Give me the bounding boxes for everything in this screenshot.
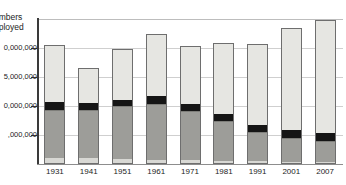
bar-segment-primary — [316, 162, 335, 163]
bar-segment-services — [147, 35, 166, 97]
bar-segment-primary — [113, 159, 132, 163]
bar — [146, 34, 167, 164]
bar-segment-tertiary-manual — [214, 114, 233, 121]
bar-segment-primary — [45, 158, 64, 163]
y-axis-tick-label: ,000,000 — [0, 130, 37, 139]
bar-segment-primary — [282, 162, 301, 163]
bar — [213, 43, 234, 164]
bar-segment-secondary — [181, 111, 200, 161]
bar-segment-tertiary-manual — [147, 96, 166, 104]
bar-segment-tertiary-manual — [79, 103, 98, 110]
bar-segment-services — [214, 44, 233, 114]
bar — [315, 20, 336, 164]
x-axis-tick-label: 1981 — [207, 167, 241, 176]
bar-segment-primary — [147, 160, 166, 164]
bar — [44, 45, 65, 164]
x-axis-tick-label: 1931 — [38, 167, 72, 176]
y-axis-tick-label: 0,000,000 — [0, 101, 37, 110]
x-axis-tick-label: 1941 — [72, 167, 106, 176]
bar — [78, 68, 99, 164]
bar-segment-services — [79, 69, 98, 103]
x-axis-tick-label: 2007 — [308, 167, 342, 176]
x-axis-tick-label: 1971 — [173, 167, 207, 176]
bar-segment-secondary — [316, 141, 335, 162]
bar-segment-secondary — [113, 106, 132, 159]
x-axis-tick-label: 1991 — [241, 167, 275, 176]
bar-segment-primary — [79, 158, 98, 163]
bar-segment-services — [316, 21, 335, 132]
bar-segment-secondary — [147, 104, 166, 160]
x-axis-tick-label: 2001 — [274, 167, 308, 176]
bar-segment-primary — [181, 160, 200, 163]
bar-segment-services — [113, 50, 132, 99]
bar-segment-secondary — [248, 132, 267, 161]
bar — [281, 28, 302, 164]
x-axis-tick-label: 1951 — [106, 167, 140, 176]
bar-segment-primary — [214, 161, 233, 163]
bar-segment-services — [45, 46, 64, 102]
x-axis-tick-label: 1961 — [139, 167, 173, 176]
bar — [112, 49, 133, 164]
bar-segment-services — [248, 45, 267, 125]
bar-segment-tertiary-manual — [45, 102, 64, 110]
bar-segment-secondary — [282, 138, 301, 162]
bar-segment-secondary — [79, 110, 98, 158]
bar-segment-services — [181, 47, 200, 104]
bar — [180, 46, 201, 164]
bar-segment-tertiary-manual — [248, 125, 267, 133]
bar-segment-services — [282, 29, 301, 131]
bar-segment-tertiary-manual — [316, 133, 335, 141]
bar-segment-secondary — [214, 121, 233, 160]
bar-series-group — [38, 19, 342, 164]
bar-segment-secondary — [45, 110, 64, 158]
y-axis-tick-label: 5,000,000 — [0, 72, 37, 81]
bar-segment-primary — [248, 161, 267, 163]
x-axis-tick-labels: 193119411951196119711981199120012007 — [38, 167, 342, 181]
bar-segment-tertiary-manual — [282, 130, 301, 138]
bar — [247, 44, 268, 164]
stacked-bar-chart: umbers nployed ,000,0000,000,0005,000,00… — [0, 0, 346, 185]
y-axis-tick-label: 0,000,000 — [0, 43, 37, 52]
